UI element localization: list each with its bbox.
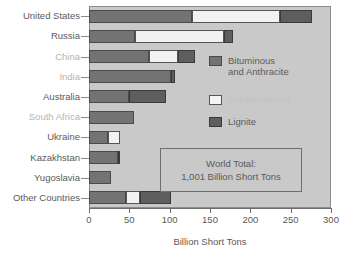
bar-segment	[89, 151, 118, 164]
bar-segment	[108, 131, 121, 144]
world-total-callout: World Total: 1,001 Billion Short Tons	[160, 148, 302, 192]
x-tick-label: 0	[69, 214, 109, 225]
legend-label: Bituminousand Anthracite	[228, 55, 289, 77]
bar-segment	[89, 50, 149, 63]
bar-segment	[89, 70, 171, 83]
bar-segment	[89, 30, 135, 43]
x-tick-label: 150	[190, 214, 230, 225]
bar-row	[0, 131, 344, 144]
legend-item: Bituminousand Anthracite	[209, 55, 289, 77]
x-tick	[129, 208, 130, 213]
x-tick	[250, 208, 251, 213]
bar-row	[0, 191, 344, 204]
bar-segment	[89, 90, 129, 103]
legend-item: Subbituminous	[209, 94, 291, 105]
x-tick	[331, 208, 332, 213]
bar-segment	[192, 10, 280, 23]
x-tick	[291, 208, 292, 213]
bar-segment	[89, 191, 126, 204]
bar-segment	[126, 191, 140, 204]
x-tick-label: 300	[311, 214, 344, 225]
bar-segment	[224, 30, 233, 43]
bar-row	[0, 70, 344, 83]
x-tick	[210, 208, 211, 213]
legend-label-line2: and Anthracite	[228, 66, 289, 77]
bar-segment	[178, 50, 196, 63]
legend-label: Lignite	[228, 116, 256, 127]
bar-segment	[140, 191, 171, 204]
bar-segment	[118, 151, 120, 164]
bar-segment	[89, 171, 111, 184]
bar-row	[0, 30, 344, 43]
x-tick	[89, 208, 90, 213]
bar-row	[0, 50, 344, 63]
x-tick	[170, 208, 171, 213]
legend-label: Subbituminous	[228, 94, 291, 105]
bar-segment	[171, 70, 175, 83]
x-axis-title: Billion Short Tons	[89, 236, 331, 247]
world-total-line1: World Total:	[206, 157, 256, 170]
legend-swatch-bit	[209, 56, 222, 66]
coal-reserves-bar-chart: United StatesRussiaChinaIndiaAustraliaSo…	[0, 0, 344, 262]
bar-segment	[129, 90, 166, 103]
bar-segment	[89, 131, 108, 144]
legend-item: Lignite	[209, 116, 256, 127]
bar-segment	[89, 111, 134, 124]
world-total-line2: 1,001 Billion Short Tons	[181, 170, 281, 183]
x-tick-label: 200	[230, 214, 270, 225]
bar-segment	[135, 30, 224, 43]
bar-row	[0, 10, 344, 23]
legend-swatch-sub	[209, 95, 222, 105]
bar-segment	[149, 50, 178, 63]
bar-row	[0, 111, 344, 124]
bar-row	[0, 90, 344, 103]
bar-segment	[280, 10, 311, 23]
x-tick-label: 250	[271, 214, 311, 225]
x-tick-label: 100	[150, 214, 190, 225]
x-tick-label: 50	[109, 214, 149, 225]
legend-swatch-lig	[209, 117, 222, 127]
bar-segment	[89, 10, 192, 23]
